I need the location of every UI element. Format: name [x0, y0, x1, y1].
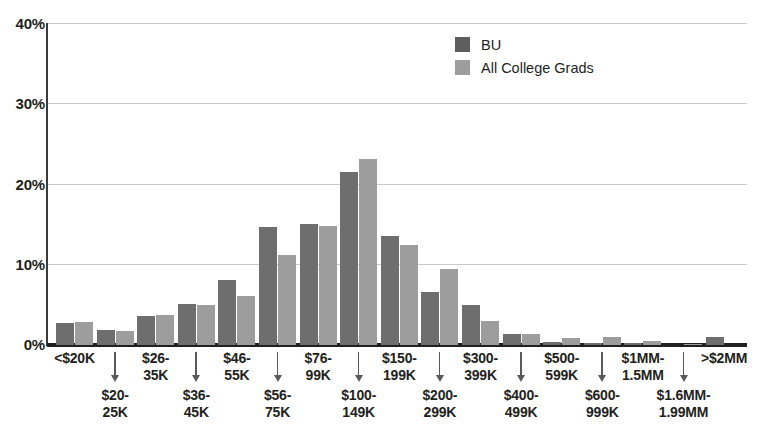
- bar-bu: [584, 343, 602, 345]
- bar-group: [218, 23, 255, 345]
- x-axis-label-line: $76-: [280, 350, 356, 367]
- legend-item-bu: BU: [455, 33, 594, 56]
- bar-all-college-grads: [481, 321, 499, 345]
- x-axis-label-line: 399K: [443, 367, 519, 384]
- legend: BU All College Grads: [455, 33, 594, 79]
- x-axis-label: $1MM-1.5MM: [605, 350, 681, 384]
- bar-bu: [340, 172, 358, 345]
- x-axis-label-line: $36-: [158, 387, 234, 404]
- bar-group: [421, 23, 458, 345]
- bar-all-college-grads: [197, 305, 215, 345]
- bar-bu: [543, 342, 561, 345]
- bar-bu: [503, 334, 521, 345]
- y-tick-20: 20%: [1, 176, 45, 193]
- bar-bu: [381, 236, 399, 345]
- x-axis-label-line: 1.99MM: [646, 404, 722, 421]
- x-axis-label-line: 1.5MM: [605, 367, 681, 384]
- x-axis-label-line: 299K: [402, 404, 478, 421]
- x-axis-label: $200-299K: [402, 387, 478, 421]
- x-axis-label-line: $26-: [118, 350, 194, 367]
- bar-group: [97, 23, 134, 345]
- x-axis-label: $400-499K: [483, 387, 559, 421]
- x-axis-label-line: $46-: [199, 350, 275, 367]
- x-axis-label: $1.6MM-1.99MM: [646, 387, 722, 421]
- bar-bu: [137, 316, 155, 345]
- x-axis-labels: <$20K$20-25K$26-35K$36-45K$46-55K$56-75K…: [0, 347, 762, 435]
- bar-bu: [300, 224, 318, 345]
- legend-label-all-college-grads: All College Grads: [481, 60, 594, 76]
- x-axis-label: >$2MM: [686, 350, 762, 367]
- bar-all-college-grads: [684, 344, 702, 345]
- x-axis-label-line: $100-: [321, 387, 397, 404]
- bar-bu: [462, 305, 480, 345]
- x-axis-label-line: 199K: [361, 367, 437, 384]
- bar-all-college-grads: [522, 334, 540, 345]
- bar-all-college-grads: [643, 341, 661, 345]
- bar-group: [340, 23, 377, 345]
- bar-all-college-grads: [359, 159, 377, 345]
- bar-bu: [56, 323, 74, 345]
- x-axis-label-line: $500-: [524, 350, 600, 367]
- x-axis-label: $46-55K: [199, 350, 275, 384]
- x-axis-label-line: 55K: [199, 367, 275, 384]
- bar-group: [300, 23, 337, 345]
- x-axis-label-line: 25K: [77, 404, 153, 421]
- x-axis-label: $20-25K: [77, 387, 153, 421]
- bar-all-college-grads: [562, 338, 580, 345]
- bars-layer: [47, 23, 747, 345]
- bar-all-college-grads: [278, 255, 296, 345]
- bar-bu: [421, 292, 439, 345]
- x-axis-label-line: >$2MM: [686, 350, 762, 367]
- income-distribution-bar-chart: 40% 30% 20% 10% 0% BU All College Grads …: [0, 0, 762, 435]
- bar-bu: [259, 227, 277, 345]
- y-tick-40: 40%: [1, 15, 45, 32]
- x-axis-label: $76-99K: [280, 350, 356, 384]
- bar-all-college-grads: [400, 245, 418, 345]
- x-axis-label: <$20K: [37, 350, 113, 367]
- x-axis-label-line: <$20K: [37, 350, 113, 367]
- x-axis-label-line: $56-: [240, 387, 316, 404]
- bar-bu: [624, 343, 642, 345]
- bar-group: [178, 23, 215, 345]
- legend-label-bu: BU: [481, 37, 501, 53]
- x-axis-label-line: $150-: [361, 350, 437, 367]
- x-axis-label: $26-35K: [118, 350, 194, 384]
- x-axis-label-line: 75K: [240, 404, 316, 421]
- x-axis-label-line: 599K: [524, 367, 600, 384]
- bar-bu: [706, 337, 724, 345]
- y-tick-30: 30%: [1, 95, 45, 112]
- x-axis-label-line: $1.6MM-: [646, 387, 722, 404]
- bar-all-college-grads: [156, 315, 174, 345]
- bar-bu: [178, 304, 196, 345]
- x-axis-label: $600-999K: [564, 387, 640, 421]
- y-tick-10: 10%: [1, 256, 45, 273]
- bar-group: [137, 23, 174, 345]
- bar-all-college-grads: [440, 269, 458, 345]
- x-axis-label: $100-149K: [321, 387, 397, 421]
- bar-group: [624, 23, 661, 345]
- bar-group: [56, 23, 93, 345]
- bar-group: [259, 23, 296, 345]
- x-axis-label: $36-45K: [158, 387, 234, 421]
- bar-all-college-grads: [237, 296, 255, 345]
- bar-group: [665, 23, 702, 345]
- bar-all-college-grads: [75, 322, 93, 345]
- x-axis-label-line: $600-: [564, 387, 640, 404]
- x-axis-label-line: $400-: [483, 387, 559, 404]
- legend-item-all-college-grads: All College Grads: [455, 56, 594, 79]
- x-axis-label-line: $200-: [402, 387, 478, 404]
- bar-all-college-grads: [116, 331, 134, 345]
- bar-all-college-grads: [319, 226, 337, 345]
- x-axis-label-line: 99K: [280, 367, 356, 384]
- legend-swatch-all-college-grads: [455, 60, 470, 75]
- bar-bu: [97, 330, 115, 345]
- bar-group: [706, 23, 743, 345]
- x-axis-label: $300-399K: [443, 350, 519, 384]
- legend-swatch-bu: [455, 37, 470, 52]
- bar-bu: [218, 280, 236, 345]
- x-axis-label-line: 149K: [321, 404, 397, 421]
- x-axis-label: $56-75K: [240, 387, 316, 421]
- bar-group: [381, 23, 418, 345]
- x-axis-label: $150-199K: [361, 350, 437, 384]
- x-axis-label-line: 499K: [483, 404, 559, 421]
